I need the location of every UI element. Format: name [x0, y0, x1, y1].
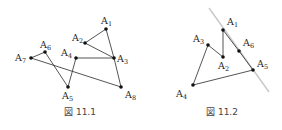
point-label-a6: A6 [242, 37, 254, 50]
point-label-a3: A3 [192, 33, 204, 46]
segment [85, 43, 114, 58]
figure-caption: 図 11.1 [64, 107, 96, 117]
segment [239, 51, 253, 70]
point-a5 [66, 85, 70, 89]
point-label-a1: A1 [100, 15, 112, 28]
segment [85, 29, 106, 43]
segment [208, 45, 223, 57]
point-a6 [237, 49, 241, 53]
point-a3 [112, 56, 116, 60]
point-a2 [83, 41, 87, 45]
point-label-a7: A7 [14, 52, 26, 65]
segment [106, 29, 114, 58]
point-a2 [221, 55, 225, 59]
point-a8 [119, 85, 123, 89]
point-label-a3: A3 [116, 53, 128, 66]
segment [31, 52, 45, 58]
point-a3 [206, 43, 210, 47]
point-a7 [29, 56, 33, 60]
point-label-a2: A2 [217, 60, 229, 73]
point-label-a8: A8 [124, 89, 136, 102]
point-label-a4: A4 [60, 47, 72, 60]
point-a5 [251, 68, 255, 72]
point-label-a1: A1 [226, 16, 238, 29]
figure-1: A1A2A3A4A5A6A7A8図 11.1 [14, 15, 136, 117]
point-label-a5: A5 [256, 58, 268, 71]
point-label-a2: A2 [71, 32, 83, 45]
point-a4 [74, 56, 78, 60]
figure-caption: 図 11.2 [206, 107, 238, 117]
segment [193, 70, 253, 85]
point-label-a5: A5 [61, 90, 73, 103]
geometry-figures: A1A2A3A4A5A6A7A8図 11.1A1A2A3A4A5A6図 11.2 [0, 0, 282, 130]
point-label-a6: A6 [39, 39, 51, 52]
point-a1 [221, 28, 225, 32]
figure-2: A1A2A3A4A5A6図 11.2 [175, 8, 269, 117]
point-a4 [191, 83, 195, 87]
segment [193, 45, 208, 85]
point-label-a4: A4 [175, 88, 187, 101]
segment [31, 58, 121, 87]
segment [223, 30, 239, 51]
diagram-canvas: A1A2A3A4A5A6A7A8図 11.1A1A2A3A4A5A6図 11.2 [0, 0, 282, 130]
